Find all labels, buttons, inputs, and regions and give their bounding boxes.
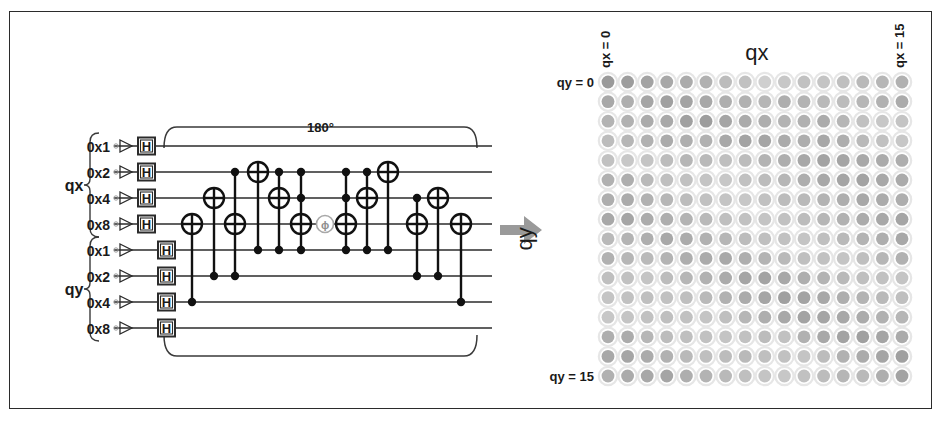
x-min-tick-label: qx = 0 [598,31,613,68]
grid-cell-dot [719,272,732,285]
grid-cell-dot [641,350,654,363]
hadamard-gate-label: H [142,139,151,154]
grid-cell-dot [798,154,811,167]
grid-cell-dot [758,350,771,363]
grid-cell-dot [837,134,850,147]
grid-cell-dot [719,370,732,383]
control-dot [275,246,283,254]
grid-cell-dot [660,76,673,89]
grid-cell-dot [798,291,811,304]
grid-cell-dot [856,76,869,89]
control-dot [457,298,465,306]
grid-cell-dot [641,154,654,167]
grid-cell-dot [680,252,693,265]
grid-cell-dot [621,272,634,285]
grid-cell-dot [778,330,791,343]
control-dot [297,194,305,202]
grid-cell-dot [739,134,752,147]
grid-cell-dot [739,291,752,304]
grid-cell-dot [700,252,713,265]
grid-cell-dot [602,291,615,304]
grid-cell-dot [896,370,909,383]
grid-cell-dot [778,272,791,285]
grid-cell-dot [621,76,634,89]
grid-cell-dot [778,291,791,304]
grid-cell-dot [798,213,811,226]
grid-cell-dot [602,252,615,265]
hadamard-gate-label: H [142,165,151,180]
hadamard-gate-label: H [162,243,171,258]
grid-cell-dot [641,330,654,343]
grid-cell-dot [680,134,693,147]
grid-cell-dot [837,350,850,363]
grid-cell-dot [719,213,732,226]
grid-cell-dot [798,134,811,147]
grid-cell-dot [778,311,791,324]
grid-cell-dot [739,115,752,128]
grid-cell-dot [621,174,634,187]
control-dot [297,246,305,254]
grid-cell-dot [856,370,869,383]
grid-cell-dot [817,154,830,167]
control-dot [413,272,421,280]
grid-cell-dot [817,311,830,324]
grid-cell-dot [896,252,909,265]
grid-cell-dot [856,330,869,343]
grid-cell-dot [739,330,752,343]
grid-cell-dot [817,370,830,383]
grid-cell-dot [700,291,713,304]
grid-cell-dot [896,311,909,324]
grid-cell-dot [856,134,869,147]
control-dot [231,168,239,176]
grid-cell-dot [739,154,752,167]
grid-cell-dot [700,370,713,383]
grid-cell-dot [621,115,634,128]
grid-cell-dot [621,134,634,147]
grid-cell-dot [660,252,673,265]
grid-cell-dot [817,272,830,285]
grid-cell-dot [758,174,771,187]
grid-cell-dot [739,370,752,383]
grid-cell-dot [680,291,693,304]
grid-cell-dot [896,291,909,304]
grid-cell-dot [856,311,869,324]
grid-cell-dot [621,291,634,304]
grid-cell-dot [758,193,771,206]
grid-cell-dot [817,350,830,363]
y-min-tick-label: qy = 0 [557,75,594,90]
grid-cell-dot [837,330,850,343]
wire-label-2: 0x4 [87,191,111,207]
grid-cell-dot [739,95,752,108]
register-label-qy: qy [65,281,84,298]
grid-cell-dot [719,350,732,363]
grid-cell-dot [602,370,615,383]
grid-cell-dot [758,213,771,226]
register-label-qx: qx [65,177,84,194]
y-max-tick-label: qy = 15 [550,369,594,384]
grid-cell-dot [876,330,889,343]
grid-cell-dot [641,213,654,226]
grid-cell-dot [680,115,693,128]
grid-cell-dot [758,370,771,383]
grid-cell-dot [739,252,752,265]
angle-bracket-bottom [164,335,477,356]
grid-cell-dot [778,350,791,363]
grid-cell-dot [660,95,673,108]
grid-cell-dot [680,272,693,285]
grid-cell-dot [837,95,850,108]
grid-cell-dot [758,330,771,343]
hadamard-gate-label: H [142,191,151,206]
grid-cell-dot [856,115,869,128]
grid-cell-dot [621,370,634,383]
grid-cell-dot [660,350,673,363]
grid-cell-dot [876,350,889,363]
control-dot [275,168,283,176]
grid-cell-dot [778,95,791,108]
grid-cell-dot [778,252,791,265]
grid-cell-dot [876,115,889,128]
grid-cell-dot [856,252,869,265]
grid-cell-dot [876,232,889,245]
grid-cell-dot [817,330,830,343]
grid-cell-dot [660,134,673,147]
wire-label-7: 0x8 [87,321,111,337]
